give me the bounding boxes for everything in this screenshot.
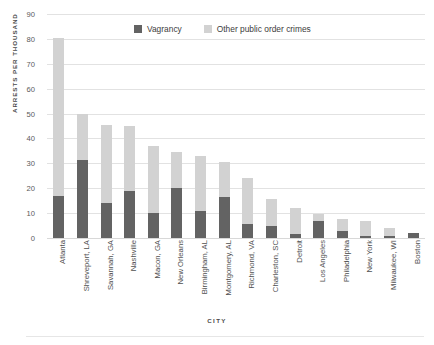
bar-group[interactable] bbox=[53, 38, 64, 238]
bar-group[interactable] bbox=[337, 219, 348, 238]
chart-legend: VagrancyOther public order crimes bbox=[134, 24, 311, 34]
bar-group[interactable] bbox=[408, 233, 419, 238]
bar-segment[interactable] bbox=[124, 126, 135, 191]
bar-segment[interactable] bbox=[101, 203, 112, 238]
bar-group[interactable] bbox=[101, 125, 112, 238]
legend-swatch-other-icon bbox=[204, 25, 212, 33]
bar-segment[interactable] bbox=[148, 146, 159, 213]
bar-segment[interactable] bbox=[219, 197, 230, 238]
y-axis-tick-label: 80 bbox=[5, 35, 35, 44]
bar-segment[interactable] bbox=[101, 125, 112, 203]
legend-item[interactable]: Other public order crimes bbox=[204, 24, 311, 34]
bottom-divider bbox=[26, 336, 424, 337]
legend-swatch-vagrancy-icon bbox=[134, 25, 142, 33]
bar-segment[interactable] bbox=[360, 221, 371, 236]
x-axis-tick-labels: AtlantaShreveport, LASavannah, GANashvil… bbox=[47, 240, 425, 316]
bar-segment[interactable] bbox=[171, 188, 182, 238]
y-axis-tick-label: 0 bbox=[5, 234, 35, 243]
bar-segment[interactable] bbox=[53, 38, 64, 196]
y-axis-tick-label: 10 bbox=[5, 209, 35, 218]
gridline bbox=[47, 238, 425, 239]
x-axis-tick-label: Montgomery, AL bbox=[224, 240, 233, 295]
bar-segment[interactable] bbox=[242, 178, 253, 224]
bar-group[interactable] bbox=[171, 152, 182, 238]
bar-segment[interactable] bbox=[384, 236, 395, 238]
y-axis-tick-label: 90 bbox=[5, 10, 35, 19]
x-axis-tick-label: Philadelphia bbox=[342, 240, 351, 282]
bar-group[interactable] bbox=[148, 146, 159, 238]
bar-segment[interactable] bbox=[313, 214, 324, 221]
bar-group[interactable] bbox=[242, 178, 253, 238]
y-axis-tick-label: 70 bbox=[5, 60, 35, 69]
stacked-bar-chart: ARRESTS PER THOUSAND 0102030405060708090… bbox=[0, 0, 434, 345]
bar-segment[interactable] bbox=[384, 228, 395, 236]
legend-item[interactable]: Vagrancy bbox=[134, 24, 182, 34]
bar-segment[interactable] bbox=[242, 224, 253, 238]
bar-group[interactable] bbox=[195, 156, 206, 238]
x-axis-title: CITY bbox=[0, 317, 434, 324]
bar-segment[interactable] bbox=[77, 114, 88, 160]
bar-group[interactable] bbox=[290, 208, 301, 238]
bar-segment[interactable] bbox=[266, 199, 277, 225]
y-axis-tick-label: 60 bbox=[5, 85, 35, 94]
y-axis-tick-label: 50 bbox=[5, 110, 35, 119]
bar-group[interactable] bbox=[219, 162, 230, 238]
x-axis-tick-label: Shreveport, LA bbox=[82, 240, 91, 291]
bar-segment[interactable] bbox=[171, 152, 182, 188]
bar-segment[interactable] bbox=[195, 211, 206, 238]
y-axis-tick-label: 40 bbox=[5, 134, 35, 143]
legend-label: Other public order crimes bbox=[217, 24, 311, 34]
bar-segment[interactable] bbox=[313, 221, 324, 238]
x-axis-tick-label: Los Angeles bbox=[318, 240, 327, 282]
bar-segment[interactable] bbox=[219, 162, 230, 197]
legend-label: Vagrancy bbox=[147, 24, 182, 34]
bar-group[interactable] bbox=[266, 199, 277, 238]
x-axis-tick-label: Macon, GA bbox=[153, 240, 162, 278]
bar-group[interactable] bbox=[360, 221, 371, 238]
bar-group[interactable] bbox=[124, 126, 135, 238]
plot-area: 0102030405060708090 bbox=[47, 14, 425, 238]
x-axis-tick-label: Boston bbox=[413, 240, 422, 264]
x-axis-tick-label: Birmingham, AL bbox=[200, 240, 209, 294]
bar-group[interactable] bbox=[313, 214, 324, 238]
bar-segment[interactable] bbox=[148, 213, 159, 238]
bars-layer bbox=[47, 14, 425, 238]
bar-segment[interactable] bbox=[77, 160, 88, 238]
x-axis-tick-label: Nashville bbox=[129, 240, 138, 271]
x-axis-tick-label: Milwaukee, WI bbox=[389, 240, 398, 290]
x-axis-tick-label: New York bbox=[365, 240, 374, 272]
bar-segment[interactable] bbox=[124, 191, 135, 238]
bar-segment[interactable] bbox=[337, 219, 348, 230]
bar-segment[interactable] bbox=[290, 234, 301, 238]
bar-group[interactable] bbox=[384, 228, 395, 238]
bar-segment[interactable] bbox=[290, 208, 301, 234]
bar-segment[interactable] bbox=[195, 156, 206, 211]
bar-group[interactable] bbox=[77, 114, 88, 238]
x-axis-tick-label: Savannah, GA bbox=[106, 240, 115, 290]
y-axis-tick-label: 20 bbox=[5, 184, 35, 193]
x-axis-tick-label: Atlanta bbox=[58, 240, 67, 264]
x-axis-tick-label: New Orleans bbox=[176, 240, 185, 284]
bar-segment[interactable] bbox=[408, 233, 419, 238]
x-axis-tick-label: Detroit bbox=[295, 240, 304, 263]
bar-segment[interactable] bbox=[360, 236, 371, 238]
bar-segment[interactable] bbox=[337, 231, 348, 238]
bar-segment[interactable] bbox=[266, 226, 277, 238]
x-axis-tick-label: Richmond, VA bbox=[247, 240, 256, 289]
x-axis-tick-label: Charleston, SC bbox=[271, 240, 280, 292]
bar-segment[interactable] bbox=[53, 196, 64, 238]
y-axis-tick-label: 30 bbox=[5, 159, 35, 168]
